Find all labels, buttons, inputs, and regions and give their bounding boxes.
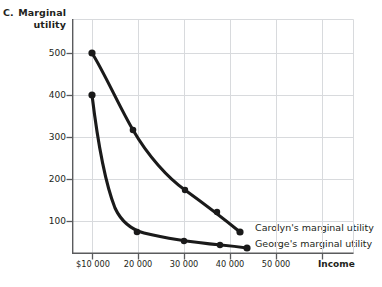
data-point — [130, 127, 137, 134]
series-line-george — [92, 95, 247, 248]
series-markers-george — [88, 91, 250, 251]
axis-lines — [72, 19, 354, 254]
data-point — [217, 242, 223, 248]
data-point — [181, 238, 187, 244]
data-point — [243, 244, 250, 251]
data-point — [134, 229, 141, 236]
chart-figure: C. Marginal utility 500 400 300 200 100 … — [0, 0, 382, 287]
x-tick-marks — [93, 254, 323, 260]
grid-vertical — [93, 20, 323, 254]
data-point — [182, 187, 188, 193]
y-tick-marks — [67, 54, 73, 222]
plot-canvas — [0, 0, 382, 287]
data-point — [214, 209, 220, 215]
data-point — [236, 228, 243, 235]
series-markers-carolyn — [88, 49, 243, 235]
data-point — [88, 49, 95, 56]
data-point — [88, 91, 95, 98]
grid-horizontal — [73, 20, 354, 254]
